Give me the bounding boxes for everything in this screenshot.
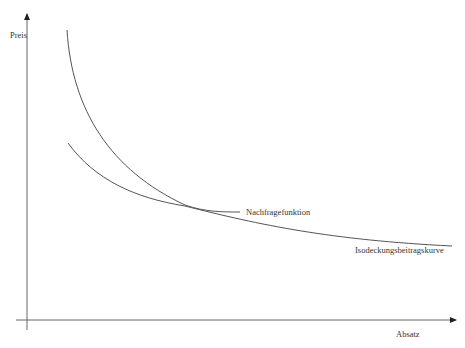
demand-curve-label: Nachfragefunktion bbox=[246, 207, 310, 217]
iso-contribution-curve-label: Isodeckungsbeitragskurve bbox=[355, 245, 444, 255]
y-axis-label: Preis bbox=[10, 30, 27, 40]
x-axis-label: Absatz bbox=[396, 329, 420, 339]
demand-curve bbox=[67, 30, 240, 212]
iso-contribution-curve bbox=[68, 143, 452, 246]
diagram-canvas bbox=[0, 0, 465, 348]
